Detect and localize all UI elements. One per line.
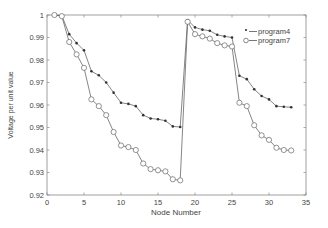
program4-marker <box>83 49 86 52</box>
program7-marker <box>207 36 212 41</box>
program7-marker <box>104 113 109 118</box>
program7-marker <box>178 178 183 183</box>
program4-marker <box>98 74 101 77</box>
y-tick-label: 0.97 <box>29 78 44 87</box>
y-tick-label: 0.93 <box>29 168 44 177</box>
program7-marker <box>229 44 234 49</box>
program7-marker <box>274 145 279 150</box>
program4-marker <box>209 29 212 32</box>
voltage-line-chart: 051015202530350.920.930.940.950.960.970.… <box>0 0 328 228</box>
x-tick-label: 0 <box>45 198 49 207</box>
program7-marker <box>126 144 131 149</box>
y-tick-label: 1 <box>40 11 44 20</box>
program4-marker <box>68 33 71 36</box>
program7-marker <box>118 143 123 148</box>
x-tick-label: 5 <box>82 198 86 207</box>
program7-marker <box>200 34 205 39</box>
program4-marker <box>223 35 226 38</box>
y-tick-label: 0.92 <box>29 191 44 200</box>
program7-marker <box>74 52 79 57</box>
program4-marker <box>201 28 204 31</box>
program7-marker <box>141 161 146 166</box>
program7-marker <box>96 104 101 109</box>
program4-marker <box>90 70 93 73</box>
program7-marker <box>192 32 197 37</box>
program7-marker <box>259 133 264 138</box>
program4-marker <box>238 74 241 77</box>
program7-marker <box>289 148 294 153</box>
program4-marker <box>290 106 293 109</box>
program7-marker <box>59 14 64 19</box>
program4-marker <box>246 78 249 81</box>
program4-marker <box>75 42 78 45</box>
legend-marker-star <box>245 29 247 31</box>
program4-marker <box>275 105 278 108</box>
program7-marker <box>155 168 160 173</box>
legend-label: program4 <box>258 27 290 36</box>
program7-marker <box>252 123 257 128</box>
program4-marker <box>194 26 197 29</box>
program7-marker <box>81 65 86 70</box>
x-tick-label: 10 <box>117 198 125 207</box>
program7-marker <box>222 43 227 48</box>
program4-marker <box>112 91 115 94</box>
x-axis-label: Node Number <box>151 208 201 217</box>
x-tick-label: 20 <box>191 198 199 207</box>
program4-marker <box>105 81 108 84</box>
program7-marker <box>237 100 242 105</box>
legend-label: program7 <box>258 36 290 45</box>
program4-marker <box>135 105 138 108</box>
x-tick-label: 35 <box>302 198 310 207</box>
program4-marker <box>179 126 182 129</box>
program7-marker <box>163 169 168 174</box>
y-tick-label: 0.95 <box>29 123 44 132</box>
program7-marker <box>52 12 57 17</box>
program4-marker <box>149 117 152 120</box>
program4-marker <box>216 34 219 37</box>
y-tick-label: 0.98 <box>29 56 44 65</box>
program4-marker <box>231 36 234 39</box>
program4-marker <box>283 106 286 109</box>
x-tick-label: 15 <box>154 198 162 207</box>
legend: program4program7 <box>244 27 290 45</box>
program7-marker <box>185 19 190 24</box>
program4-marker <box>120 101 123 104</box>
program7-marker <box>281 147 286 152</box>
program7-marker <box>67 39 72 44</box>
program7-marker <box>89 97 94 102</box>
program7-marker <box>148 167 153 172</box>
program4-marker <box>164 119 167 122</box>
program4-marker <box>142 114 145 117</box>
program4-marker <box>157 118 160 121</box>
y-axis-label: Voltage per unit value <box>7 71 15 138</box>
x-tick-label: 25 <box>228 198 236 207</box>
program7-marker <box>133 147 138 152</box>
program4-marker <box>268 98 271 101</box>
program4-marker <box>253 88 256 91</box>
program7-marker <box>215 41 220 46</box>
program7-marker <box>111 129 116 134</box>
y-tick-label: 0.96 <box>29 101 44 110</box>
y-tick-label: 0.94 <box>29 146 44 155</box>
x-tick-label: 30 <box>265 198 273 207</box>
program4-marker <box>260 95 263 98</box>
program7-marker <box>244 104 249 109</box>
legend-marker-circle <box>244 38 249 43</box>
y-tick-label: 0.99 <box>29 33 44 42</box>
program7-marker <box>170 177 175 182</box>
program4-marker <box>127 103 130 106</box>
program4-marker <box>172 125 175 128</box>
program7-marker <box>266 137 271 142</box>
